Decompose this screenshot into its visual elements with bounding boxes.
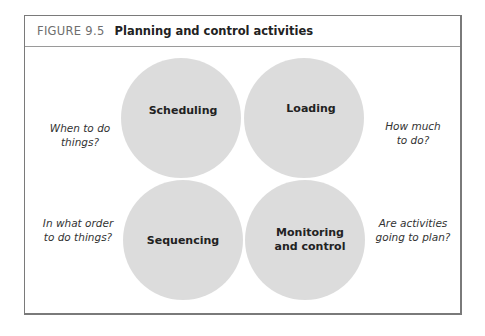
question-line: When to do bbox=[35, 121, 125, 135]
question-line: Are activities bbox=[363, 216, 463, 230]
question-line: to do things? bbox=[33, 230, 123, 244]
question-order: In what order to do things? bbox=[33, 216, 123, 244]
question-line: In what order bbox=[33, 216, 123, 230]
venn-diagram: Scheduling Loading Sequencing Monitoring… bbox=[0, 0, 485, 336]
question-line: to do? bbox=[363, 133, 463, 147]
question-plan: Are activities going to plan? bbox=[363, 216, 463, 244]
circle-loading bbox=[244, 58, 364, 178]
label-scheduling: Scheduling bbox=[149, 104, 218, 117]
label-monitoring-line1: Monitoring bbox=[276, 226, 344, 239]
question-line: How much bbox=[363, 119, 463, 133]
question-when: When to do things? bbox=[35, 121, 125, 149]
label-sequencing: Sequencing bbox=[147, 234, 219, 247]
label-loading: Loading bbox=[286, 102, 335, 115]
circle-scheduling bbox=[121, 58, 241, 178]
question-line: things? bbox=[35, 135, 125, 149]
label-monitoring-line2: and control bbox=[275, 240, 346, 253]
question-line: going to plan? bbox=[363, 230, 463, 244]
question-how-much: How much to do? bbox=[363, 119, 463, 147]
